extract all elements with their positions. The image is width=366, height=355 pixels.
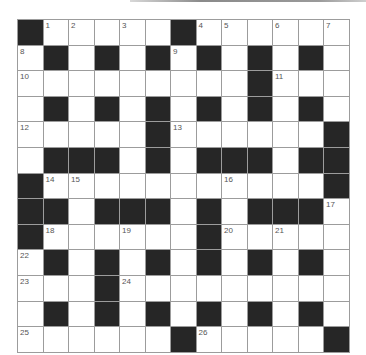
- letter-cell[interactable]: 21: [273, 225, 299, 251]
- letter-cell[interactable]: [324, 276, 350, 302]
- letter-cell[interactable]: [95, 20, 121, 46]
- letter-cell[interactable]: [197, 71, 223, 97]
- letter-cell[interactable]: [273, 250, 299, 276]
- letter-cell[interactable]: [18, 302, 44, 328]
- letter-cell[interactable]: [171, 97, 197, 123]
- letter-cell[interactable]: [146, 276, 172, 302]
- letter-cell[interactable]: [171, 250, 197, 276]
- letter-cell[interactable]: 23: [18, 276, 44, 302]
- letter-cell[interactable]: 25: [18, 327, 44, 353]
- letter-cell[interactable]: 10: [18, 71, 44, 97]
- letter-cell[interactable]: [273, 302, 299, 328]
- letter-cell[interactable]: [248, 20, 274, 46]
- letter-cell[interactable]: 12: [18, 122, 44, 148]
- letter-cell[interactable]: [171, 225, 197, 251]
- letter-cell[interactable]: [95, 225, 121, 251]
- letter-cell[interactable]: [171, 302, 197, 328]
- letter-cell[interactable]: 17: [324, 199, 350, 225]
- letter-cell[interactable]: [273, 327, 299, 353]
- letter-cell[interactable]: [44, 276, 70, 302]
- letter-cell[interactable]: [120, 97, 146, 123]
- letter-cell[interactable]: [324, 97, 350, 123]
- letter-cell[interactable]: [146, 71, 172, 97]
- letter-cell[interactable]: [248, 174, 274, 200]
- letter-cell[interactable]: 24: [120, 276, 146, 302]
- letter-cell[interactable]: [248, 122, 274, 148]
- letter-cell[interactable]: [95, 122, 121, 148]
- letter-cell[interactable]: [120, 46, 146, 72]
- letter-cell[interactable]: [18, 97, 44, 123]
- letter-cell[interactable]: 3: [120, 20, 146, 46]
- letter-cell[interactable]: [120, 122, 146, 148]
- letter-cell[interactable]: [171, 148, 197, 174]
- letter-cell[interactable]: 11: [273, 71, 299, 97]
- letter-cell[interactable]: [324, 71, 350, 97]
- letter-cell[interactable]: [171, 276, 197, 302]
- letter-cell[interactable]: 9: [171, 46, 197, 72]
- letter-cell[interactable]: 16: [222, 174, 248, 200]
- letter-cell[interactable]: [69, 46, 95, 72]
- letter-cell[interactable]: 4: [197, 20, 223, 46]
- letter-cell[interactable]: [120, 302, 146, 328]
- letter-cell[interactable]: [69, 199, 95, 225]
- letter-cell[interactable]: [299, 122, 325, 148]
- letter-cell[interactable]: [222, 327, 248, 353]
- letter-cell[interactable]: 19: [120, 225, 146, 251]
- letter-cell[interactable]: [95, 174, 121, 200]
- letter-cell[interactable]: [69, 71, 95, 97]
- letter-cell[interactable]: [69, 250, 95, 276]
- letter-cell[interactable]: [44, 122, 70, 148]
- letter-cell[interactable]: [273, 148, 299, 174]
- letter-cell[interactable]: [273, 97, 299, 123]
- letter-cell[interactable]: [222, 250, 248, 276]
- letter-cell[interactable]: [171, 71, 197, 97]
- letter-cell[interactable]: [95, 327, 121, 353]
- letter-cell[interactable]: [222, 276, 248, 302]
- letter-cell[interactable]: [146, 225, 172, 251]
- letter-cell[interactable]: [197, 174, 223, 200]
- letter-cell[interactable]: 5: [222, 20, 248, 46]
- letter-cell[interactable]: 22: [18, 250, 44, 276]
- letter-cell[interactable]: [18, 148, 44, 174]
- letter-cell[interactable]: [69, 225, 95, 251]
- letter-cell[interactable]: [299, 276, 325, 302]
- letter-cell[interactable]: [273, 276, 299, 302]
- letter-cell[interactable]: [324, 225, 350, 251]
- letter-cell[interactable]: [324, 302, 350, 328]
- letter-cell[interactable]: [273, 122, 299, 148]
- letter-cell[interactable]: 2: [69, 20, 95, 46]
- letter-cell[interactable]: 6: [273, 20, 299, 46]
- letter-cell[interactable]: [222, 71, 248, 97]
- letter-cell[interactable]: [120, 148, 146, 174]
- letter-cell[interactable]: 26: [197, 327, 223, 353]
- letter-cell[interactable]: [222, 122, 248, 148]
- letter-cell[interactable]: [146, 327, 172, 353]
- letter-cell[interactable]: [171, 174, 197, 200]
- letter-cell[interactable]: [120, 327, 146, 353]
- letter-cell[interactable]: [299, 71, 325, 97]
- letter-cell[interactable]: [146, 174, 172, 200]
- letter-cell[interactable]: [324, 250, 350, 276]
- letter-cell[interactable]: [44, 327, 70, 353]
- letter-cell[interactable]: 20: [222, 225, 248, 251]
- letter-cell[interactable]: [120, 71, 146, 97]
- letter-cell[interactable]: [171, 199, 197, 225]
- letter-cell[interactable]: [69, 97, 95, 123]
- letter-cell[interactable]: [120, 174, 146, 200]
- letter-cell[interactable]: [299, 327, 325, 353]
- letter-cell[interactable]: 15: [69, 174, 95, 200]
- letter-cell[interactable]: [273, 174, 299, 200]
- letter-cell[interactable]: [69, 122, 95, 148]
- letter-cell[interactable]: [222, 302, 248, 328]
- letter-cell[interactable]: [69, 302, 95, 328]
- letter-cell[interactable]: [299, 20, 325, 46]
- letter-cell[interactable]: [197, 276, 223, 302]
- letter-cell[interactable]: [299, 174, 325, 200]
- letter-cell[interactable]: [248, 225, 274, 251]
- letter-cell[interactable]: 1: [44, 20, 70, 46]
- letter-cell[interactable]: [299, 225, 325, 251]
- letter-cell[interactable]: [324, 46, 350, 72]
- letter-cell[interactable]: 7: [324, 20, 350, 46]
- letter-cell[interactable]: 8: [18, 46, 44, 72]
- letter-cell[interactable]: 13: [171, 122, 197, 148]
